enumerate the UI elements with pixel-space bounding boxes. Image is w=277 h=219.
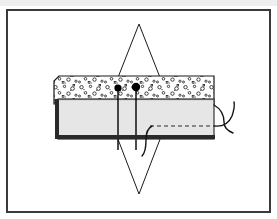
panel-left-dark-border: [55, 99, 59, 139]
anchor-pin-right-head: [132, 83, 140, 91]
figure-root: Technical cross-section diagram Cross-se…: [0, 0, 277, 219]
formwork-panel: [55, 99, 215, 139]
technical-diagram-svg: [0, 0, 277, 219]
anchor-pin-left-head: [114, 84, 121, 91]
panel-bottom-dark-border: [55, 135, 215, 139]
